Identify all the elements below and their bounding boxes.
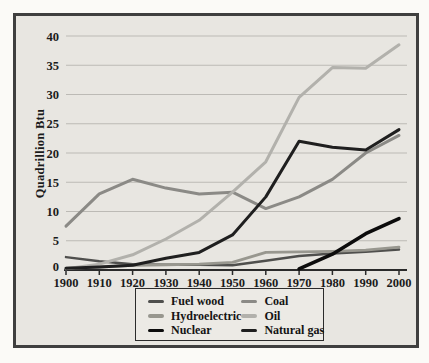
- y-tick-label: 15: [47, 176, 60, 190]
- legend-swatch-natural-gas: [241, 329, 257, 333]
- y-tick-label: 40: [47, 30, 60, 44]
- legend-label-hydroelectric: Hydroelectric: [171, 310, 241, 322]
- y-axis-label: Quadrillion Btu: [33, 84, 48, 224]
- legend: Fuel woodHydroelectricNuclear CoalOilNat…: [135, 288, 324, 341]
- legend-swatch-nuclear: [148, 329, 164, 333]
- y-tick-label: 30: [47, 88, 60, 102]
- x-tick-label: 1910: [87, 276, 112, 290]
- x-tick-label: 1900: [54, 276, 79, 290]
- legend-item-nuclear: Nuclear: [148, 323, 241, 338]
- legend-item-coal: Coal: [241, 294, 324, 309]
- chart-area: 0510152025303540190019101920193019401950…: [16, 16, 416, 345]
- chart-frame: 0510152025303540190019101920193019401950…: [13, 13, 419, 348]
- y-tick-label: 0: [53, 260, 59, 274]
- series-line-nuclear: [299, 219, 399, 269]
- legend-label-nuclear: Nuclear: [171, 324, 212, 336]
- y-axis-ticks: 0510152025303540: [47, 30, 60, 275]
- y-tick-label: 35: [47, 59, 60, 73]
- legend-column: CoalOilNatural gas: [241, 294, 324, 340]
- legend-item-fuel-wood: Fuel wood: [148, 294, 241, 309]
- y-tick-label: 10: [47, 205, 60, 219]
- x-tick-label: 1990: [353, 276, 378, 290]
- legend-swatch-coal: [241, 300, 257, 304]
- legend-swatch-oil: [241, 314, 257, 318]
- y-tick-label: 20: [47, 147, 60, 161]
- y-tick-label: 25: [47, 117, 60, 131]
- series-line-natural-gas: [66, 130, 399, 269]
- figure: 0510152025303540190019101920193019401950…: [0, 0, 429, 363]
- legend-label-natural-gas: Natural gas: [264, 324, 324, 336]
- legend-swatch-fuel-wood: [148, 300, 164, 304]
- legend-label-fuel-wood: Fuel wood: [171, 295, 224, 307]
- y-tick-label: 5: [53, 234, 59, 248]
- x-axis: 1900191019201930194019501960197019801990…: [54, 270, 412, 290]
- legend-column: Fuel woodHydroelectricNuclear: [148, 294, 241, 340]
- legend-label-coal: Coal: [264, 295, 288, 307]
- legend-item-hydroelectric: Hydroelectric: [148, 309, 241, 324]
- legend-swatch-hydroelectric: [148, 314, 164, 318]
- legend-item-natural-gas: Natural gas: [241, 323, 324, 338]
- legend-item-oil: Oil: [241, 309, 324, 324]
- legend-label-oil: Oil: [264, 310, 280, 322]
- x-tick-label: 2000: [387, 276, 412, 290]
